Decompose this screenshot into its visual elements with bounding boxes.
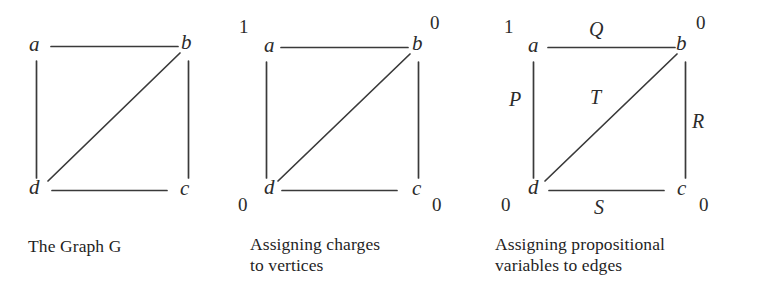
edge-variable-bc: R [692,111,704,131]
charge-value-c: 0 [432,195,442,214]
panel-charges: a b c d 1 0 0 0 Assigning charges to ver… [230,0,470,304]
edge-variable-ab: Q [589,19,603,39]
panel-caption: Assigning propositional variables to edg… [495,234,665,276]
edge-variable-db: T [590,87,601,107]
vertex-label-d: d [264,177,275,198]
vertex-label-c: c [677,178,686,199]
panel-caption: Assigning charges to vertices [250,234,380,276]
charge-value-a: 1 [239,17,249,36]
edge-d-b [545,54,677,181]
vertex-label-a: a [528,35,539,56]
edge-variable-ad: P [509,89,521,109]
vertex-label-d: d [528,177,539,198]
panel-graph-g: a b c d The Graph G [0,0,230,304]
charge-value-b: 0 [696,13,706,32]
charge-value-d: 0 [238,195,248,214]
vertex-label-d: d [29,177,40,198]
vertex-label-b: b [412,33,423,54]
charge-value-d: 0 [501,195,511,214]
charge-value-b: 0 [430,13,440,32]
charge-value-c: 0 [699,195,709,214]
vertex-label-a: a [264,35,275,56]
vertex-label-b: b [676,33,687,54]
vertex-label-a: a [29,34,40,55]
panel-propositional-variables: a b c d 1 0 0 0 Q P R S T Assigning prop… [470,0,764,304]
edge-d-b [48,53,180,181]
vertex-label-c: c [180,178,189,199]
vertex-label-c: c [412,178,421,199]
graph-figure: a b c d The Graph G a b c d 1 0 0 0 Assi… [0,0,764,304]
charge-value-a: 1 [504,17,514,36]
edge-variable-dc: S [594,197,604,217]
panel-caption: The Graph G [28,236,121,257]
edge-d-b [278,54,410,181]
graph-edges-propositional-variables [470,0,764,230]
vertex-label-b: b [181,32,192,53]
